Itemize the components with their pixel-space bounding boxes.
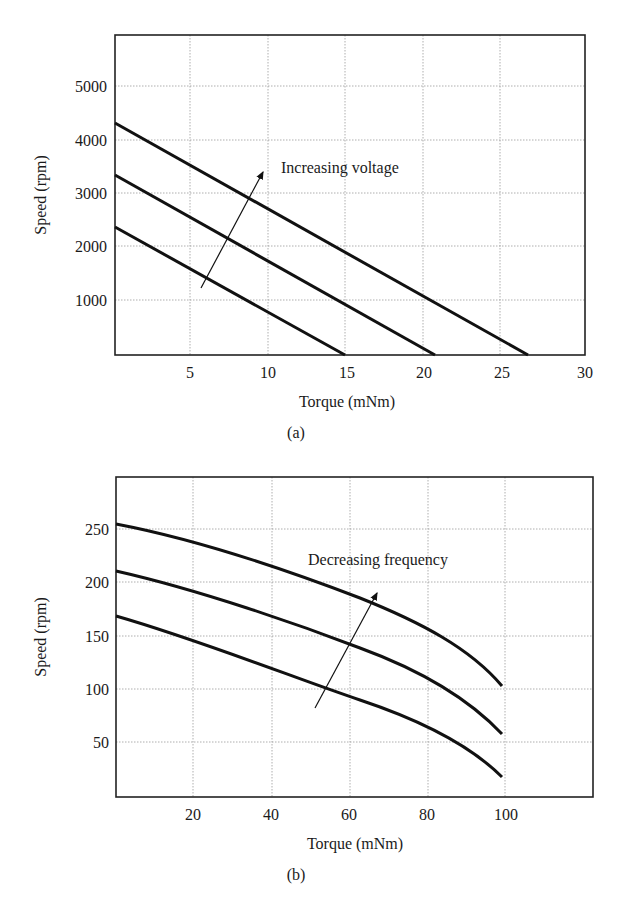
chart-a-line-mid-voltage — [115, 175, 435, 355]
chart-b-annotation: Decreasing frequency — [308, 551, 448, 569]
svg-text:5: 5 — [186, 364, 194, 381]
svg-text:100: 100 — [85, 681, 109, 698]
svg-text:150: 150 — [85, 628, 109, 645]
svg-text:20: 20 — [416, 364, 432, 381]
chart-a-annotation: Increasing voltage — [281, 159, 399, 177]
svg-text:200: 200 — [85, 574, 109, 591]
chart-b-line-mid-frequency — [116, 571, 502, 734]
chart-b-line-high-frequency — [116, 616, 502, 777]
svg-text:20: 20 — [185, 806, 201, 823]
svg-text:30: 30 — [577, 364, 593, 381]
svg-text:1000: 1000 — [75, 292, 107, 309]
chart-b-grid — [116, 477, 593, 797]
svg-text:5000: 5000 — [75, 78, 107, 95]
svg-text:40: 40 — [263, 806, 279, 823]
chart-a-xlabel: Torque (mNm) — [299, 393, 395, 411]
svg-text:10: 10 — [260, 364, 276, 381]
figure: Increasing voltage 5000 4000 3000 2000 1… — [0, 0, 623, 920]
svg-text:15: 15 — [339, 364, 355, 381]
chart-a-yticks: 5000 4000 3000 2000 1000 — [75, 78, 107, 309]
svg-text:2000: 2000 — [75, 238, 107, 255]
chart-a-line-high-voltage — [115, 123, 528, 355]
chart-b: Decreasing frequency 250 200 150 100 50 … — [32, 477, 593, 884]
svg-text:80: 80 — [419, 806, 435, 823]
chart-a: Increasing voltage 5000 4000 3000 2000 1… — [32, 35, 593, 442]
svg-text:50: 50 — [93, 734, 109, 751]
svg-text:60: 60 — [341, 806, 357, 823]
chart-a-xticks: 5 10 15 20 25 30 — [186, 364, 593, 381]
svg-text:25: 25 — [494, 364, 510, 381]
chart-b-ylabel: Speed (rpm) — [32, 597, 50, 677]
svg-text:250: 250 — [85, 521, 109, 538]
chart-b-xticks: 20 40 60 80 100 — [185, 806, 518, 823]
chart-a-ylabel: Speed (rpm) — [32, 155, 50, 235]
svg-text:3000: 3000 — [75, 185, 107, 202]
chart-b-yticks: 250 200 150 100 50 — [85, 521, 109, 751]
chart-b-xlabel: Torque (mNm) — [307, 835, 403, 853]
svg-text:4000: 4000 — [75, 132, 107, 149]
svg-text:100: 100 — [494, 806, 518, 823]
chart-b-caption: (b) — [287, 866, 306, 884]
chart-a-caption: (a) — [287, 424, 305, 442]
chart-b-line-low-frequency — [116, 524, 502, 686]
chart-b-frame — [116, 477, 593, 797]
